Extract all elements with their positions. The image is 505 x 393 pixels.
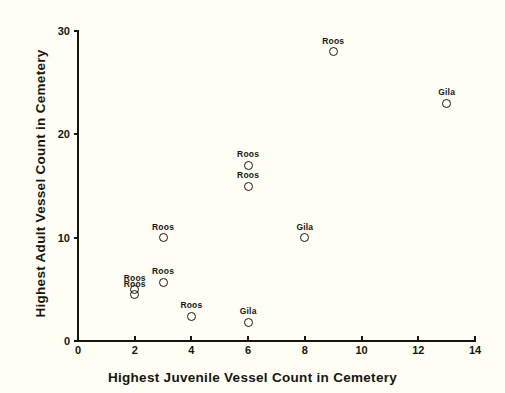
x-axis-tick <box>247 336 249 341</box>
y-axis-tick <box>74 30 79 32</box>
data-point-label: Roos <box>152 222 174 232</box>
x-axis-tick <box>474 336 476 341</box>
x-axis-tick-label: 0 <box>75 344 81 356</box>
data-point <box>300 233 309 242</box>
x-axis-tick <box>417 336 419 341</box>
x-axis-tick-label: 14 <box>469 344 481 356</box>
data-point <box>329 47 338 56</box>
y-axis-tick-label: 10 <box>58 232 70 244</box>
y-axis-tick <box>74 133 79 135</box>
x-axis-tick-label: 8 <box>302 344 308 356</box>
x-axis-tick-label: 12 <box>412 344 424 356</box>
data-point <box>130 290 139 299</box>
x-axis-tick-label: 2 <box>132 344 138 356</box>
x-axis-title: Highest Juvenile Vessel Count in Cemeter… <box>0 370 505 385</box>
x-axis-tick <box>304 336 306 341</box>
x-axis-tick <box>134 336 136 341</box>
x-axis-tick <box>361 336 363 341</box>
data-point-label: Roos <box>237 170 259 180</box>
data-point <box>187 312 196 321</box>
data-point <box>244 161 253 170</box>
y-axis-tick-label: 30 <box>58 25 70 37</box>
data-point <box>442 99 451 108</box>
y-axis-title: Highest Adult Vessel Count in Cemetery <box>33 24 48 344</box>
y-axis-tick-label: 20 <box>58 128 70 140</box>
data-point-label: Roos <box>322 36 344 46</box>
data-point-label: Roos <box>152 266 174 276</box>
y-axis-line <box>77 31 79 342</box>
data-point-label: Roos <box>180 300 202 310</box>
data-point-label: Roos <box>237 149 259 159</box>
x-axis-tick <box>190 336 192 341</box>
data-point <box>244 318 253 327</box>
y-axis-tick <box>74 237 79 239</box>
y-axis-tick <box>74 340 79 342</box>
x-axis-tick-label: 6 <box>245 344 251 356</box>
data-point-label: Gila <box>240 306 257 316</box>
x-axis-tick-label: 10 <box>355 344 367 356</box>
data-point-label: Gila <box>438 87 455 97</box>
scatter-chart: 024681012140102030RoosRoosRoosRoosRoosRo… <box>0 0 505 393</box>
data-point <box>159 278 168 287</box>
x-axis-tick-label: 4 <box>188 344 194 356</box>
y-axis-tick-label: 0 <box>64 335 70 347</box>
data-point <box>159 233 168 242</box>
data-point <box>244 182 253 191</box>
data-point-label: Gila <box>296 222 313 232</box>
data-point-label: Roos <box>124 279 146 289</box>
